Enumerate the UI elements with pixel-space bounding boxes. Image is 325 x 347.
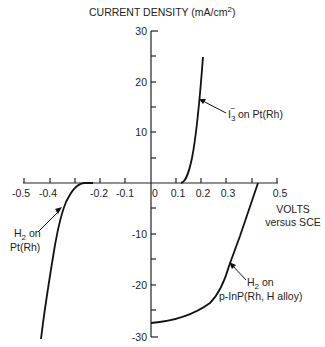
x-axis-label-line1: VOLTS (276, 203, 310, 215)
annotation-arrow-i3 (201, 100, 226, 113)
y-ticks (151, 31, 158, 337)
annotation-h2-on-inp-line2: p-InP(Rh, H alloy) (219, 290, 302, 302)
annotation-i3-on-pt: I3− on Pt(Rh) (228, 104, 283, 123)
svg-text:20: 20 (135, 76, 147, 88)
svg-text:-0.5: -0.5 (12, 187, 30, 199)
svg-text:-10: -10 (132, 228, 147, 240)
svg-text:-0.2: -0.2 (90, 187, 108, 199)
svg-text:-0.1: -0.1 (116, 187, 134, 199)
series-h2-on-inp (151, 183, 258, 323)
svg-text:-30: -30 (132, 331, 147, 343)
chart: CURRENT DENSITY (mA/cm2) 30 20 10 -10 -2… (0, 0, 325, 347)
svg-text:0.5: 0.5 (273, 187, 288, 199)
svg-text:0.1: 0.1 (171, 187, 186, 199)
annotation-arrow-h2-pt (38, 210, 60, 232)
x-axis-label-line2: versus SCE (265, 216, 320, 228)
annotation-h2-on-inp-line1: H2 on (247, 276, 274, 291)
svg-text:10: 10 (135, 126, 147, 138)
svg-text:-20: -20 (132, 279, 147, 291)
arrowhead-icon (55, 207, 62, 214)
y-tick-labels: 30 20 10 -10 -20 -30 (132, 25, 147, 343)
svg-text:-0.4: -0.4 (39, 187, 57, 199)
series-h2-on-pt (41, 183, 93, 339)
x-tick-labels: -0.5 -0.4 -0.2 -0.1 0 0.1 0.2 0.3 0.5 (12, 187, 287, 199)
series-i3-on-pt (181, 57, 203, 183)
svg-text:30: 30 (135, 25, 147, 37)
svg-text:0: 0 (152, 187, 158, 199)
y-axis-label: CURRENT DENSITY (mA/cm2) (89, 5, 235, 18)
annotation-h2-on-pt-line1: H2 on (14, 227, 41, 242)
annotation-h2-on-pt-line2: Pt(Rh) (10, 241, 40, 253)
svg-text:0.3: 0.3 (221, 187, 236, 199)
svg-text:0.2: 0.2 (196, 187, 211, 199)
